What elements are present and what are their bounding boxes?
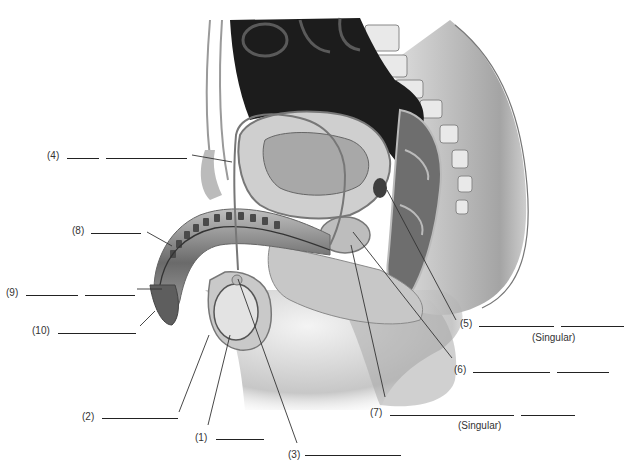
label-5-blank-2[interactable] (561, 326, 624, 327)
testis (214, 284, 258, 340)
glans (150, 285, 178, 325)
label-5-blank-1[interactable] (479, 326, 554, 327)
label-1-number: (1) (195, 432, 207, 444)
urinary-bladder (238, 112, 390, 219)
seminal-vesicle (373, 178, 387, 198)
label-8-blank-1[interactable] (91, 233, 141, 234)
label-3-blank-1[interactable] (305, 455, 401, 456)
label-8-number: (8) (72, 225, 84, 237)
label-6-number: (6) (454, 364, 466, 376)
label-3-number: (3) (288, 449, 300, 461)
label-5-note: (Singular) (532, 332, 575, 344)
label-9-number: (9) (6, 287, 18, 299)
label-9-blank-2[interactable] (85, 295, 135, 296)
label-10-number: (10) (32, 325, 50, 337)
label-6-blank-1[interactable] (473, 372, 550, 373)
label-10-blank-1[interactable] (58, 333, 136, 334)
label-7-blank-1[interactable] (390, 415, 514, 416)
label-1-blank-1[interactable] (216, 439, 264, 440)
label-6-blank-2[interactable] (557, 372, 609, 373)
label-2-blank-1[interactable] (102, 418, 178, 419)
epididymis (232, 275, 242, 285)
label-2-number: (2) (82, 411, 94, 423)
label-4-blank-1[interactable] (67, 158, 99, 159)
label-7-number: (7) (370, 407, 382, 419)
label-5-number: (5) (460, 318, 472, 330)
label-4-number: (4) (47, 150, 59, 162)
label-7-note: (Singular) (458, 420, 501, 432)
label-4-blank-2[interactable] (106, 158, 187, 159)
label-9-blank-1[interactable] (26, 295, 78, 296)
label-7-blank-2[interactable] (521, 415, 575, 416)
